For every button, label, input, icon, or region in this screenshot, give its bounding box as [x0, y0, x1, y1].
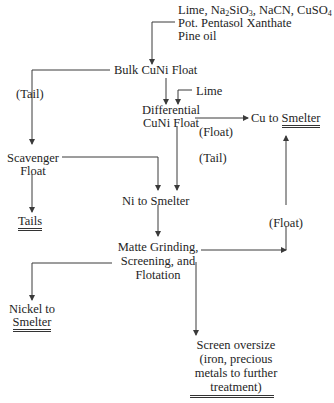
tail-label-1: (Tail): [16, 87, 44, 101]
cu-to-smelter-node: Cu to Smelter: [251, 111, 320, 125]
tails-node: Tails: [18, 214, 42, 228]
differential-float-line-1: Differential: [126, 103, 216, 117]
oversize-line-4: treatment): [186, 380, 286, 394]
matte-line-2: Screening, and: [108, 254, 208, 268]
reagents-line-1: Lime, Na2SiO3, NaCN, CuSO4: [178, 3, 332, 17]
oversize-underline: [190, 395, 274, 398]
reagents-line-3: Pine oil: [178, 29, 217, 43]
nickel-to-smelter-line-1: Nickel to: [4, 302, 60, 316]
float-label-2: (Float): [269, 216, 303, 230]
cu-smelter-underlined: Smelter: [282, 111, 321, 128]
oversize-line-1: Screen oversize: [186, 338, 286, 352]
ni-to-smelter-node: Ni to Smelter: [122, 194, 189, 208]
float-label-1: (Float): [199, 125, 233, 139]
oversize-line-3: metals to further: [186, 366, 286, 380]
scavenger-float-line-2: Float: [4, 164, 62, 178]
reagents-line-2: Pot. Pentasol Xanthate: [178, 16, 292, 30]
oversize-line-2: (iron, precious: [186, 352, 286, 366]
lime-label: Lime: [196, 84, 222, 98]
matte-line-3: Flotation: [108, 268, 208, 282]
scavenger-float-line-1: Scavenger: [4, 151, 62, 165]
tail-label-2: (Tail): [199, 151, 227, 165]
matte-line-1: Matte Grinding,: [108, 240, 208, 254]
nickel-to-smelter-line-2: Smelter: [4, 315, 60, 329]
bulk-cuni-float-node: Bulk CuNi Float: [114, 63, 197, 77]
